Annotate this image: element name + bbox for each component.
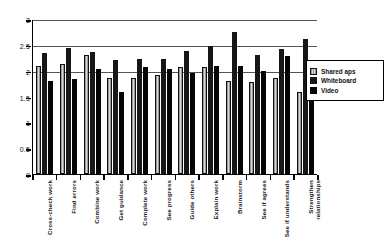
bar-group <box>33 20 57 174</box>
legend-label: Shared aps <box>321 68 355 75</box>
bar-1 <box>303 39 308 174</box>
bar-1 <box>161 59 166 174</box>
bar-2 <box>190 73 195 174</box>
y-tick-mark <box>26 98 31 100</box>
bar-group <box>104 20 128 174</box>
bar-1 <box>208 46 213 174</box>
bar-1 <box>113 60 118 174</box>
bar-0 <box>131 78 136 174</box>
bar-0 <box>84 55 89 174</box>
bar-group <box>175 20 199 174</box>
bar-1 <box>279 49 284 174</box>
bar-0 <box>107 78 112 174</box>
bar-2 <box>96 69 101 174</box>
bar-group <box>246 20 270 174</box>
legend-swatch-icon <box>310 68 317 75</box>
bar-group <box>128 20 152 174</box>
x-axis-label: See progress <box>166 180 173 252</box>
bar-2 <box>214 66 219 174</box>
bar-1 <box>42 53 47 174</box>
bar-0 <box>297 92 302 174</box>
legend-item-video: Video <box>310 87 380 94</box>
bar-1 <box>255 55 260 174</box>
bar-1 <box>90 52 95 174</box>
x-axis-label: Combine work <box>94 180 101 252</box>
bar-group <box>270 20 294 174</box>
y-tick-mark <box>26 20 31 22</box>
bar-group <box>80 20 104 174</box>
legend-label: Video <box>321 87 338 94</box>
x-axis-label: See if understands <box>284 180 291 252</box>
bar-group <box>57 20 81 174</box>
x-axis-label: Cross-check work <box>47 180 54 252</box>
bar-chart: 3 2.5 2 1.5 1 0.5 0 Cross-check workFind… <box>0 0 388 252</box>
bar-0 <box>60 64 65 174</box>
bar-2 <box>119 92 124 174</box>
bar-2 <box>143 67 148 174</box>
x-axis-label: Explain work <box>213 180 220 252</box>
bar-group <box>222 20 246 174</box>
legend-swatch-icon <box>310 77 317 84</box>
bar-0 <box>202 67 207 174</box>
x-axis-labels: Cross-check workFind errorsCombine workG… <box>32 180 317 252</box>
bar-2 <box>261 71 266 174</box>
bar-group <box>151 20 175 174</box>
legend-item-whiteboard: Whiteboard <box>310 77 380 84</box>
legend-swatch-icon <box>310 87 317 94</box>
x-axis-label: Guide others <box>189 180 196 252</box>
bar-1 <box>137 59 142 174</box>
legend: Shared aps Whiteboard Video <box>306 60 384 101</box>
bar-2 <box>238 66 243 174</box>
y-tick-mark <box>26 123 31 125</box>
bar-0 <box>249 82 254 174</box>
bar-1 <box>66 48 71 174</box>
bar-group <box>199 20 223 174</box>
bar-0 <box>178 67 183 174</box>
bar-groups <box>33 20 317 174</box>
legend-label: Whiteboard <box>321 77 356 84</box>
y-tick-mark <box>26 72 31 74</box>
bar-2 <box>285 56 290 174</box>
y-tick-mark <box>26 175 31 177</box>
plot-area <box>32 20 317 175</box>
legend-item-shared-aps: Shared aps <box>310 68 380 75</box>
bar-0 <box>273 78 278 174</box>
bar-2 <box>167 69 172 174</box>
y-tick-mark <box>26 149 31 151</box>
x-axis-label: Complete work <box>142 180 149 252</box>
bar-0 <box>36 66 41 175</box>
y-tick-mark <box>26 46 31 48</box>
bar-0 <box>155 75 160 174</box>
x-axis-label: Find errors <box>71 180 78 252</box>
x-axis-label: Strengthen relationships <box>308 180 321 252</box>
bar-2 <box>48 81 53 174</box>
x-axis-label: Brainstorm <box>237 180 244 252</box>
bar-1 <box>184 51 189 174</box>
bar-0 <box>226 81 231 174</box>
x-axis-label: See if agrees <box>261 180 268 252</box>
x-axis-label: Get guidance <box>118 180 125 252</box>
bar-2 <box>72 79 77 174</box>
y-axis: 3 2.5 2 1.5 1 0.5 0 <box>0 20 30 175</box>
bar-1 <box>232 32 237 174</box>
